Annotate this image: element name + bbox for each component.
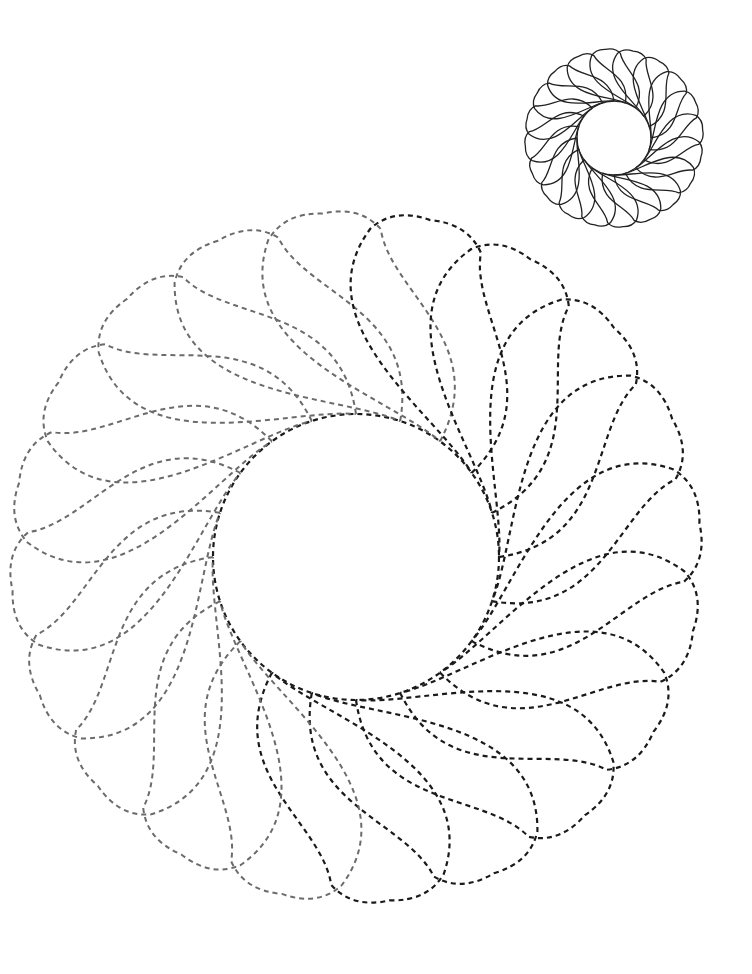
reference-petal: [533, 83, 602, 119]
tracing-center-circle: [213, 414, 499, 700]
tracing-petal: [257, 673, 449, 903]
tracing-rosette: [10, 211, 701, 902]
worksheet-canvas: [0, 0, 752, 974]
reference-petal: [559, 149, 595, 218]
tracing-petal: [143, 601, 281, 869]
reference-petals: [525, 49, 703, 227]
tracing-petal: [490, 299, 637, 557]
tracing-petal: [98, 276, 356, 423]
tracing-petal: [400, 631, 668, 769]
reference-petal: [625, 157, 694, 193]
tracing-petal: [430, 244, 568, 512]
tracing-petal: [43, 344, 311, 482]
tracing-petals: [10, 211, 701, 902]
tracing-petal: [356, 691, 614, 838]
reference-rosette: [525, 49, 703, 227]
reference-center-circle: [577, 101, 651, 175]
tracing-petal: [10, 458, 240, 650]
reference-petal: [633, 57, 669, 126]
tracing-petal: [75, 557, 222, 815]
